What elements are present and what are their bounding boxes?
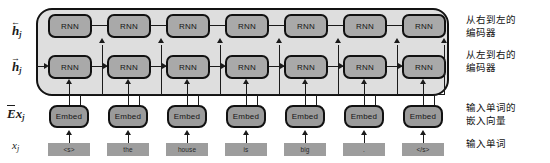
embed-to-backward-climb-5 (338, 45, 339, 95)
embed-to-backward-riser-7 (434, 95, 435, 105)
backward-rnn-cell-7: RNN (402, 14, 446, 38)
embed-to-forward-line-3 (187, 84, 188, 105)
embed-to-forward-arrow-6 (361, 79, 367, 84)
forward-rnn-cell-2: RNN (107, 55, 151, 79)
token-to-embed-arrow-4 (243, 130, 249, 135)
backward-rnn-label-6: RNN (356, 22, 374, 31)
embed-to-backward-span-5 (316, 94, 339, 95)
embed-cell-4: Embed (226, 105, 266, 128)
embed-to-backward-arrow-2 (158, 38, 164, 43)
embed-to-backward-riser-5 (316, 95, 317, 105)
token-to-embed-arrow-6 (361, 130, 367, 135)
forward-rnn-label-3: RNN (179, 63, 197, 72)
right-arrow-accent-icon: → (11, 55, 20, 61)
token-to-embed-line-7 (423, 135, 424, 143)
token-cell-1: <s> (48, 143, 90, 156)
token-to-embed-arrow-5 (302, 130, 308, 135)
token-to-embed-arrow-1 (66, 130, 72, 135)
backward-rnn-label-7: RNN (415, 22, 433, 31)
embed-to-forward-arrow-4 (243, 79, 249, 84)
embed-to-backward-arrow-7 (441, 38, 447, 43)
embed-label-2: Embed (115, 112, 141, 121)
forward-rnn-cell-1: RNN (48, 55, 92, 79)
token-cell-6: . (343, 143, 385, 156)
diagram-canvas: ←hj →hj Exj xj 从右到左的 编码器 从左到右的 编码器 输入单词的… (0, 0, 550, 163)
embed-to-backward-span-3 (198, 94, 221, 95)
forward-rnn-label-2: RNN (120, 63, 138, 72)
left-arrow-accent-icon: ← (11, 19, 20, 25)
label-embedding-vector: Exj (7, 107, 24, 122)
embed-to-backward-climb-3 (220, 45, 221, 95)
embed-cell-7: Embed (403, 105, 443, 128)
embed-label-4: Embed (233, 112, 259, 121)
label-right-to-left-encoder: 从右到左的 编码器 (466, 14, 516, 39)
embed-to-backward-climb-4 (279, 45, 280, 95)
forward-rnn-label-5: RNN (297, 63, 315, 72)
backward-rnn-cell-4: RNN (225, 14, 269, 38)
forward-rnn-label-6: RNN (356, 63, 374, 72)
embed-label-6: Embed (351, 112, 377, 121)
embed-to-backward-span-6 (375, 94, 398, 95)
embed-to-backward-span-4 (257, 94, 280, 95)
backward-rnn-label-5: RNN (297, 22, 315, 31)
embed-to-forward-arrow-2 (125, 79, 131, 84)
embed-to-forward-arrow-3 (184, 79, 190, 84)
embed-cell-2: Embed (108, 105, 148, 128)
token-to-embed-line-1 (69, 135, 70, 143)
forward-rnn-cell-7: RNN (402, 55, 446, 79)
embed-to-backward-riser-2 (139, 95, 140, 105)
embed-to-backward-span-1 (80, 94, 103, 95)
forward-rnn-cell-6: RNN (343, 55, 387, 79)
embed-to-backward-riser-1 (80, 95, 81, 105)
backward-rnn-label-2: RNN (120, 22, 138, 31)
backward-rnn-cell-5: RNN (284, 14, 328, 38)
label-h-forward: →hj (12, 60, 21, 75)
embed-label-3: Embed (174, 112, 200, 121)
backward-rnn-label-4: RNN (238, 22, 256, 31)
token-to-embed-arrow-2 (125, 130, 131, 135)
forward-rnn-cell-5: RNN (284, 55, 328, 79)
embed-to-forward-line-2 (128, 84, 129, 105)
embed-to-forward-line-5 (305, 84, 306, 105)
embed-cell-3: Embed (167, 105, 207, 128)
embed-to-backward-arrow-1 (99, 38, 105, 43)
embed-cell-6: Embed (344, 105, 384, 128)
token-label-5: big (301, 146, 310, 153)
embed-to-backward-climb-1 (102, 45, 103, 95)
embed-label-7: Embed (410, 112, 436, 121)
token-cell-5: big (284, 143, 326, 156)
embed-to-backward-climb-2 (161, 45, 162, 95)
embed-to-backward-arrow-6 (394, 38, 400, 43)
embed-cell-1: Embed (49, 105, 89, 128)
forward-rnn-cell-4: RNN (225, 55, 269, 79)
backward-rnn-cell-1: RNN (48, 14, 92, 38)
embed-to-backward-riser-6 (375, 95, 376, 105)
token-to-embed-line-5 (305, 135, 306, 143)
token-label-7: </s> (416, 146, 429, 153)
label-left-to-right-encoder: 从左到右的 编码器 (466, 49, 516, 74)
embed-to-backward-arrow-4 (276, 38, 282, 43)
embed-to-backward-riser-4 (257, 95, 258, 105)
backward-rnn-label-1: RNN (61, 22, 79, 31)
embed-to-forward-line-1 (69, 84, 70, 105)
token-cell-2: the (107, 143, 149, 156)
embed-to-forward-line-4 (246, 84, 247, 105)
overbar-accent-icon (7, 105, 15, 106)
token-to-embed-line-3 (187, 135, 188, 143)
token-to-embed-line-4 (246, 135, 247, 143)
forward-rnn-label-7: RNN (415, 63, 433, 72)
token-to-embed-arrow-3 (184, 130, 190, 135)
embed-to-forward-line-6 (364, 84, 365, 105)
token-to-embed-line-2 (128, 135, 129, 143)
embed-cell-5: Embed (285, 105, 325, 128)
label-h-backward: ←hj (12, 24, 21, 39)
token-label-2: the (123, 146, 132, 153)
token-label-3: house (178, 146, 196, 153)
token-cell-3: house (166, 143, 208, 156)
token-label-1: <s> (63, 146, 74, 153)
embed-to-forward-arrow-5 (302, 79, 308, 84)
backward-rnn-label-3: RNN (179, 22, 197, 31)
embed-to-backward-arrow-5 (335, 38, 341, 43)
label-input-token: xj (12, 140, 19, 153)
embed-to-backward-span-2 (139, 94, 162, 95)
